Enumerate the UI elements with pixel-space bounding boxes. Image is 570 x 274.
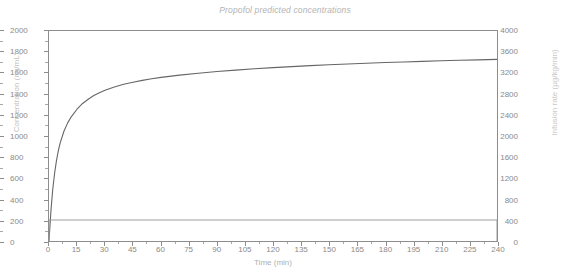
y-axis-right-label: Infusion rate (µg/kg/min)	[550, 33, 559, 153]
x-tick-label: 45	[128, 245, 137, 254]
x-tick-label: 210	[435, 245, 448, 254]
x-tick-mark	[217, 242, 218, 246]
x-tick-mark-minor	[428, 242, 429, 244]
y-tick-label-left: 4000	[478, 26, 518, 35]
x-tick-mark	[329, 242, 330, 246]
x-tick-label: 90	[212, 245, 221, 254]
y-tick-mark-left	[44, 221, 48, 222]
y-tick-label-right: 600	[10, 174, 23, 183]
y-tick-label-left: 800	[478, 195, 518, 204]
chart-title: Propofol predicted concentrations	[0, 5, 570, 15]
x-tick-mark	[301, 242, 302, 246]
y-tick-mark-left-minor	[45, 168, 48, 169]
y-tick-mark-right	[0, 242, 4, 243]
y-tick-mark-right	[0, 30, 4, 31]
y-tick-mark-left	[44, 30, 48, 31]
y-tick-mark-right	[0, 200, 4, 201]
x-axis-label: Time (min)	[48, 258, 498, 267]
y-tick-mark-right	[0, 115, 4, 116]
x-tick-label: 120	[266, 245, 279, 254]
x-tick-label: 30	[100, 245, 109, 254]
x-tick-mark	[273, 242, 274, 246]
x-tick-mark-minor	[90, 242, 91, 244]
y-tick-mark-left-minor	[45, 62, 48, 63]
y-tick-mark-left-minor	[45, 189, 48, 190]
series-line-1	[49, 59, 497, 241]
x-tick-mark	[442, 242, 443, 246]
y-tick-mark-right-minor	[0, 210, 3, 211]
y-tick-mark-right	[0, 72, 4, 73]
y-tick-mark-right-minor	[0, 147, 3, 148]
x-tick-mark-minor	[203, 242, 204, 244]
x-tick-label: 60	[156, 245, 165, 254]
chart-figure: Propofol predicted concentrations 040080…	[0, 0, 570, 274]
x-tick-mark-minor	[371, 242, 372, 244]
x-tick-label: 135	[294, 245, 307, 254]
x-tick-mark-minor	[287, 242, 288, 244]
y-tick-mark-left	[44, 178, 48, 179]
x-tick-mark	[161, 242, 162, 246]
x-tick-mark-minor	[456, 242, 457, 244]
x-tick-mark-minor	[146, 242, 147, 244]
x-tick-label: 105	[238, 245, 251, 254]
y-tick-mark-left-minor	[45, 125, 48, 126]
y-tick-mark-left-minor	[45, 83, 48, 84]
series-line-2	[49, 220, 497, 241]
x-tick-label: 180	[379, 245, 392, 254]
x-tick-mark-minor	[343, 242, 344, 244]
x-tick-mark	[470, 242, 471, 246]
x-tick-mark-minor	[484, 242, 485, 244]
y-tick-mark-left	[44, 115, 48, 116]
x-tick-mark	[48, 242, 49, 246]
y-tick-mark-right	[0, 51, 4, 52]
x-tick-mark	[245, 242, 246, 246]
x-tick-mark-minor	[315, 242, 316, 244]
y-tick-mark-right-minor	[0, 62, 3, 63]
y-tick-mark-right-minor	[0, 168, 3, 169]
x-tick-label: 0	[46, 245, 50, 254]
y-tick-mark-left	[44, 72, 48, 73]
x-tick-label: 165	[351, 245, 364, 254]
y-tick-label-left: 2800	[478, 89, 518, 98]
y-tick-mark-right-minor	[0, 41, 3, 42]
y-tick-mark-right-minor	[0, 104, 3, 105]
y-tick-label-left: 3600	[478, 47, 518, 56]
x-tick-mark	[104, 242, 105, 246]
x-tick-label: 240	[491, 245, 504, 254]
y-tick-label-right: 800	[10, 153, 23, 162]
y-tick-mark-left	[44, 51, 48, 52]
y-tick-mark-left	[44, 157, 48, 158]
x-tick-mark	[414, 242, 415, 246]
x-tick-mark	[132, 242, 133, 246]
y-tick-mark-left	[44, 94, 48, 95]
x-tick-mark	[357, 242, 358, 246]
y-tick-mark-right-minor	[0, 231, 3, 232]
y-tick-mark-right	[0, 136, 4, 137]
y-tick-mark-left-minor	[45, 104, 48, 105]
y-tick-mark-left-minor	[45, 231, 48, 232]
x-tick-mark-minor	[118, 242, 119, 244]
y-tick-mark-left	[44, 136, 48, 137]
y-tick-label-left: 1600	[478, 153, 518, 162]
x-tick-mark	[189, 242, 190, 246]
x-tick-mark	[76, 242, 77, 246]
y-tick-label-right: 200	[10, 216, 23, 225]
series-layer	[49, 59, 497, 241]
x-tick-label: 225	[463, 245, 476, 254]
y-tick-mark-left-minor	[45, 210, 48, 211]
y-tick-mark-right	[0, 221, 4, 222]
y-tick-label-right: 0	[10, 238, 14, 247]
x-tick-mark-minor	[62, 242, 63, 244]
x-tick-mark	[498, 242, 499, 246]
y-tick-label-left: 1200	[478, 174, 518, 183]
x-tick-label: 75	[184, 245, 193, 254]
plot-svg	[49, 31, 497, 241]
x-tick-label: 15	[72, 245, 81, 254]
y-tick-mark-right	[0, 94, 4, 95]
y-axis-left-label: Concentration (ng/mL)	[12, 33, 21, 153]
y-tick-label-right: 400	[10, 195, 23, 204]
x-tick-mark	[386, 242, 387, 246]
y-tick-label-left: 3200	[478, 68, 518, 77]
y-tick-label-left: 2000	[478, 132, 518, 141]
y-tick-mark-left-minor	[45, 41, 48, 42]
